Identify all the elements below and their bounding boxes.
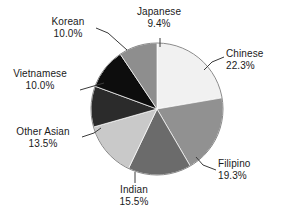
slice-label-filipino-name: Filipino [218, 158, 276, 170]
slice-label-vietnamese-name: Vietnamese [2, 68, 78, 80]
slice-label-vietnamese: Vietnamese 10.0% [2, 68, 78, 91]
slice-label-filipino: Filipino 19.3% [218, 158, 276, 181]
slice-label-japanese-name: Japanese [128, 6, 190, 18]
pie-slice-group [91, 43, 223, 175]
slice-label-japanese: Japanese 9.4% [128, 6, 190, 29]
slice-label-korean-name: Korean [42, 16, 94, 28]
leader-line-korean [96, 28, 127, 50]
slice-label-other-asian-name: Other Asian [6, 126, 80, 138]
slice-label-japanese-value: 9.4% [128, 18, 190, 30]
slice-label-other-asian-value: 13.5% [6, 138, 80, 150]
slice-label-chinese: Chinese 22.3% [226, 48, 280, 71]
slice-label-indian-value: 15.5% [108, 196, 160, 208]
slice-label-chinese-name: Chinese [226, 48, 280, 60]
slice-label-korean-value: 10.0% [42, 28, 94, 40]
pie-chart: Japanese 9.4% Chinese 22.3% Filipino 19.… [0, 0, 281, 219]
slice-label-filipino-value: 19.3% [218, 170, 276, 182]
pie-slice-chinese [157, 43, 222, 109]
slice-label-vietnamese-value: 10.0% [2, 80, 78, 92]
slice-label-indian-name: Indian [108, 184, 160, 196]
slice-label-chinese-value: 22.3% [226, 60, 280, 72]
slice-label-indian: Indian 15.5% [108, 184, 160, 207]
slice-label-korean: Korean 10.0% [42, 16, 94, 39]
slice-label-other-asian: Other Asian 13.5% [6, 126, 80, 149]
